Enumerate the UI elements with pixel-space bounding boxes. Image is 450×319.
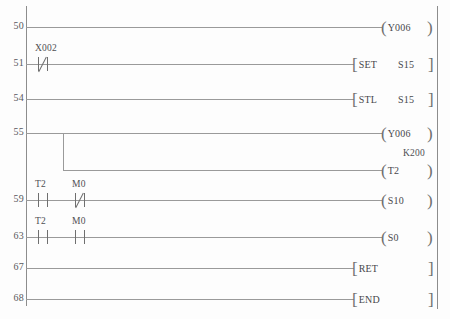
coil-paren-close-glyph: ) [427,162,433,179]
step-number: 68 [2,292,24,303]
instruction-block[interactable]: [RET [352,259,378,277]
rung-wire [26,64,354,65]
contact-bar-left [38,193,39,207]
output-coil[interactable]: (S0 [381,228,399,246]
instruction-block[interactable]: [SET [352,55,377,73]
coil-paren-open-icon: ( [381,125,387,142]
instruction-operand-text: S15 [398,94,414,105]
bracket-close-icon: ] [428,259,434,277]
bracket-open-icon: [ [352,91,358,108]
contact-bar-left [75,230,76,244]
coil-paren-close-glyph: ) [427,19,433,36]
bracket-close-glyph: ] [428,56,434,73]
contact-bar-right [84,230,85,244]
contact-label: M0 [72,179,86,189]
instruction-block[interactable]: [STL [352,90,377,108]
right-power-rail [437,6,438,309]
bracket-close-glyph: ] [428,260,434,277]
bracket-close-icon: ] [428,90,434,108]
contact-slash [38,57,47,73]
contact-normally-closed[interactable] [33,57,53,71]
contact-bar-right [84,193,85,207]
coil-paren-close-glyph: ) [427,192,433,209]
step-number: 59 [2,193,24,204]
rung-wire [26,133,382,134]
step-number: 67 [2,261,24,272]
contact-normally-open[interactable] [33,230,53,244]
coil-paren-open-icon: ( [381,192,387,209]
coil-paren-close-glyph: ) [427,229,433,246]
instruction-mnemonic: END [359,294,380,305]
coil-paren-close-icon: ) [427,228,433,246]
step-number: 54 [2,92,24,103]
bracket-open-icon: [ [352,56,358,73]
contact-bar-right [47,57,48,71]
branch-connector [63,133,64,170]
step-number: 51 [2,57,24,68]
rung-wire [26,27,382,28]
instruction-mnemonic: RET [359,263,379,274]
bracket-close-glyph: ] [428,91,434,108]
coil-device-name: Y006 [388,128,411,139]
coil-paren-open-icon: ( [381,229,387,246]
ladder-diagram-canvas: 50(Y006)51X002[SETS15]54[STLS15]55(Y006)… [0,0,450,319]
contact-label: X002 [35,43,57,53]
step-number: 50 [2,20,24,31]
coil-paren-close-icon: ) [427,124,433,142]
bracket-close-glyph: ] [428,291,434,308]
coil-paren-open-icon: ( [381,19,387,36]
output-coil[interactable]: (T2 [381,161,399,179]
coil-paren-close-icon: ) [427,191,433,209]
rung-wire [26,268,354,269]
timer-preset-value: K200 [403,148,425,158]
coil-paren-open-icon: ( [381,162,387,179]
left-power-rail [26,6,27,306]
coil-paren-close-icon: ) [427,18,433,36]
instruction-block[interactable]: [END [352,290,380,308]
contact-bar-right [47,193,48,207]
contact-slash [75,193,84,209]
coil-paren-close-glyph: ) [427,125,433,142]
instruction-operand: S15 [398,55,414,73]
bracket-close-icon: ] [428,290,434,308]
instruction-mnemonic: SET [359,59,377,70]
coil-device-name: S0 [388,232,399,243]
instruction-operand-text: S15 [398,59,414,70]
contact-label: T2 [35,216,46,226]
instruction-mnemonic: STL [359,94,377,105]
coil-paren-close-icon: ) [427,161,433,179]
rung-wire [26,299,354,300]
contact-bar-left [38,230,39,244]
coil-device-name: T2 [388,165,400,176]
instruction-operand: S15 [398,90,414,108]
bracket-close-icon: ] [428,55,434,73]
contact-bar-right [47,230,48,244]
rung-wire [63,170,382,171]
output-coil[interactable]: (Y006 [381,18,411,36]
bracket-open-icon: [ [352,291,358,308]
contact-label: T2 [35,179,46,189]
contact-normally-closed[interactable] [70,193,90,207]
contact-normally-open[interactable] [33,193,53,207]
step-number: 63 [2,230,24,241]
coil-device-name: Y006 [388,22,411,33]
rung-wire [26,99,354,100]
output-coil[interactable]: (Y006 [381,124,411,142]
step-number: 55 [2,126,24,137]
bracket-open-icon: [ [352,260,358,277]
contact-normally-open[interactable] [70,230,90,244]
coil-device-name: S10 [388,195,404,206]
contact-label: M0 [72,216,86,226]
output-coil[interactable]: (S10 [381,191,404,209]
